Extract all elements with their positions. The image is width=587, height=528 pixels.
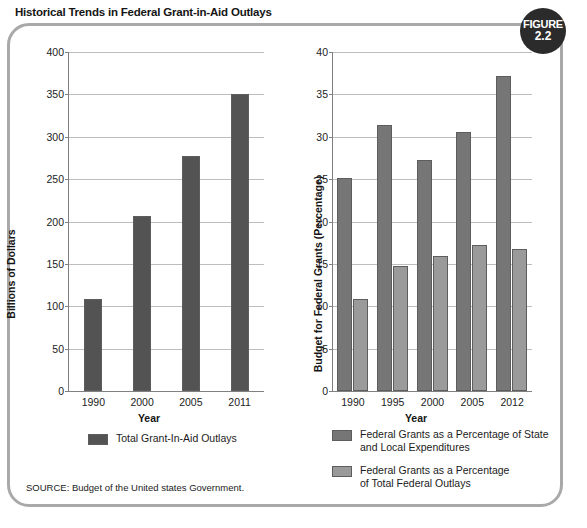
y-tick-mark (329, 52, 333, 53)
x-tick-label: 2012 (500, 396, 523, 408)
bar (133, 216, 151, 391)
y-tick-label: 30 (316, 131, 328, 143)
y-tick-label: 40 (316, 46, 328, 58)
y-tick-mark (65, 222, 69, 223)
figure-title: Historical Trends in Federal Grant-in-Ai… (15, 6, 272, 18)
y-tick-mark (329, 264, 333, 265)
y-tick-label: 10 (316, 300, 328, 312)
y-tick-mark (65, 52, 69, 53)
bar (182, 156, 200, 391)
figure-number-badge: FIGURE 2.2 (520, 8, 566, 54)
y-tick-label: 0 (322, 385, 328, 397)
grid-line (333, 52, 532, 53)
legend-label: Total Grant-In-Aid Outlays (116, 432, 237, 445)
bar (377, 125, 392, 391)
y-tick-mark (65, 94, 69, 95)
y-tick-mark (329, 306, 333, 307)
y-tick-label: 100 (46, 300, 64, 312)
x-tick-label: 1995 (381, 396, 404, 408)
x-axis-label-right: Year (288, 412, 544, 424)
bar (472, 245, 487, 391)
x-tick-label: 2000 (421, 396, 444, 408)
x-tick-label: 2000 (130, 396, 153, 408)
y-tick-mark (65, 349, 69, 350)
y-tick-label: 350 (46, 88, 64, 100)
legend-label-line2: and Local Expenditures (360, 441, 470, 453)
bar (337, 178, 352, 391)
y-tick-mark (329, 179, 333, 180)
y-tick-label: 300 (46, 131, 64, 143)
y-tick-label: 0 (58, 385, 64, 397)
bar (417, 160, 432, 391)
y-tick-mark (65, 391, 69, 392)
grid-line (69, 52, 264, 53)
y-tick-label: 200 (46, 216, 64, 228)
y-tick-mark (65, 179, 69, 180)
x-axis-label-left: Year (24, 412, 274, 424)
y-tick-label: 400 (46, 46, 64, 58)
legend-left: Total Grant-In-Aid Outlays (68, 432, 288, 454)
legend-right: Federal Grants as a Percentage of State … (332, 428, 562, 500)
bar (433, 256, 448, 391)
legend-item: Federal Grants as a Percentage of State … (332, 428, 562, 455)
y-tick-mark (65, 137, 69, 138)
legend-label: Federal Grants as a Percentage of State … (360, 428, 549, 455)
x-tick-label: 1990 (341, 396, 364, 408)
chart-panel-left: Billions of Dollars 05010015020025030035… (24, 44, 274, 504)
x-tick-label: 2005 (179, 396, 202, 408)
bar (393, 266, 408, 391)
y-axis-label-left: Billions of Dollars (5, 229, 17, 318)
x-tick-label: 1990 (82, 396, 105, 408)
chart-panel-right: Budget for Federal Grants (Percentage) 0… (288, 44, 544, 504)
y-tick-label: 250 (46, 173, 64, 185)
y-tick-mark (329, 94, 333, 95)
bar (456, 132, 471, 391)
legend-swatch-icon (332, 466, 352, 477)
bar (231, 94, 249, 391)
legend-swatch-icon (88, 434, 108, 445)
legend-label-line2: of Total Federal Outlays (360, 477, 471, 489)
source-note: SOURCE: Budget of the United states Gove… (26, 482, 244, 493)
bar (496, 76, 511, 391)
y-tick-mark (65, 264, 69, 265)
plot-area-left: 0501001502002503003504001990200020052011 (68, 52, 264, 392)
legend-item: Federal Grants as a Percentage of Total … (332, 464, 562, 491)
bar (353, 299, 368, 391)
bar (84, 299, 102, 391)
legend-item: Total Grant-In-Aid Outlays (88, 432, 288, 445)
y-tick-mark (329, 137, 333, 138)
bar (512, 249, 527, 391)
legend-label-line1: Federal Grants as a Percentage (360, 464, 509, 476)
y-tick-label: 50 (52, 343, 64, 355)
y-tick-mark (329, 349, 333, 350)
y-tick-mark (329, 222, 333, 223)
legend-label: Federal Grants as a Percentage of Total … (360, 464, 509, 491)
y-tick-label: 25 (316, 173, 328, 185)
y-tick-mark (65, 306, 69, 307)
y-tick-label: 150 (46, 258, 64, 270)
y-tick-label: 5 (322, 343, 328, 355)
figure-badge-number: 2.2 (535, 30, 552, 42)
y-tick-mark (329, 391, 333, 392)
y-tick-label: 15 (316, 258, 328, 270)
plot-area-right: 051015202530354019901995200020052012 (332, 52, 532, 392)
legend-label-line1: Federal Grants as a Percentage of State (360, 428, 549, 440)
x-tick-label: 2011 (228, 396, 251, 408)
y-tick-label: 20 (316, 216, 328, 228)
y-tick-label: 35 (316, 88, 328, 100)
legend-swatch-icon (332, 430, 352, 441)
x-tick-label: 2005 (461, 396, 484, 408)
